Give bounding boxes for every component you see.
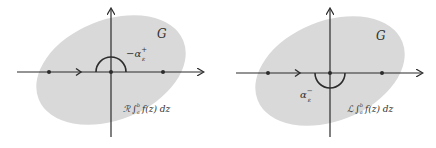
region-label: G bbox=[376, 29, 386, 43]
point-a bbox=[266, 71, 270, 75]
right-panel: G α−ε ℒ∫abf(z) dz bbox=[236, 0, 422, 147]
region-label: G bbox=[157, 27, 167, 41]
contour-diagram: G −α+ε ℛ∫abf(z) dz G α−ε ℒ∫abf(z) dz bbox=[0, 0, 436, 148]
point-origin bbox=[328, 71, 332, 75]
point-a bbox=[47, 70, 51, 74]
point-origin bbox=[109, 70, 113, 74]
point-b bbox=[380, 71, 384, 75]
left-panel: G −α+ε ℛ∫abf(z) dz bbox=[17, 0, 203, 146]
point-b bbox=[161, 70, 165, 74]
